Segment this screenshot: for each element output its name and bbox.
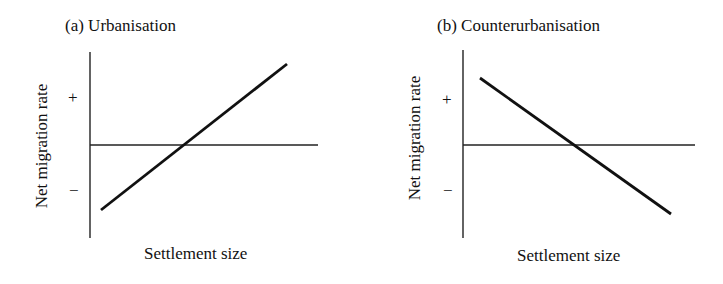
panel-a-title: (a) Urbanisation — [65, 16, 176, 36]
panel-b-axes — [463, 50, 695, 238]
panel-b-plus-label: + — [442, 90, 452, 110]
panel-b-trend-line — [480, 78, 671, 214]
panel-b-x-label: Settlement size — [517, 246, 620, 266]
panel-a-minus-label: − — [69, 181, 79, 201]
panel-a-axes — [90, 52, 318, 238]
panel-a-trend-line — [101, 64, 287, 210]
panel-a-plus-label: + — [68, 88, 78, 108]
diagram-canvas — [0, 0, 723, 284]
panel-a-y-label: Net migration rate — [32, 73, 52, 219]
panel-b-title: (b) Counterurbanisation — [437, 16, 600, 36]
panel-a-x-label: Settlement size — [144, 244, 247, 264]
panel-b-minus-label: − — [443, 181, 453, 201]
panel-b-y-label: Net migration rate — [405, 65, 425, 211]
